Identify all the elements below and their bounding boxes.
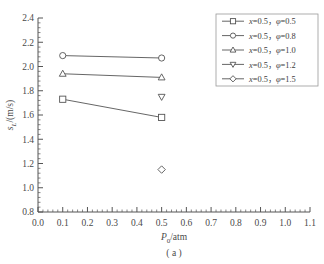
x-tick-label: 0.5	[156, 218, 168, 228]
y-axis-ticks: 0.81.01.21.41.61.82.02.22.4	[22, 13, 43, 217]
y-axis-title-text: sL/(m/s)	[5, 100, 18, 130]
y-tick-label: 1.2	[22, 159, 34, 169]
data-point-circle	[60, 52, 66, 58]
series-line	[63, 74, 162, 78]
figure-caption: ( a )	[166, 248, 181, 259]
legend-label[interactable]: x=0.5，φ=1.2	[248, 61, 296, 70]
legend-label[interactable]: x=0.5，φ=0.8	[248, 32, 296, 41]
data-point-triangle-up	[59, 70, 66, 76]
x-tick-label: 0.1	[57, 218, 69, 228]
data-point-square	[60, 96, 66, 102]
legend-label[interactable]: x=0.5，φ=1.0	[248, 46, 296, 55]
x-tick-label: 0.7	[205, 218, 217, 228]
y-tick-label: 2.4	[22, 13, 34, 23]
data-point-triangle-down	[158, 94, 165, 100]
x-tick-label: 0.0	[32, 218, 44, 228]
series-3	[158, 94, 165, 100]
series-line	[63, 99, 162, 117]
data-point-circle	[159, 55, 165, 61]
series-4	[158, 166, 165, 173]
x-tick-label: 1.1	[304, 218, 316, 228]
legend: x=0.5，φ=0.5x=0.5，φ=0.8x=0.5，φ=1.0x=0.5，φ…	[216, 14, 318, 86]
x-axis-title: P0/atm	[160, 232, 188, 245]
y-axis-title: sL/(m/s)	[5, 100, 18, 130]
x-tick-label: 0.3	[106, 218, 118, 228]
y-tick-label: 1.8	[22, 86, 34, 96]
series-0	[60, 96, 165, 120]
y-tick-label: 1.6	[22, 110, 34, 120]
y-tick-label: 1.0	[22, 183, 34, 193]
x-tick-label: 1.0	[279, 218, 291, 228]
series-line	[63, 56, 162, 58]
data-point-square	[159, 114, 165, 120]
x-axis-ticks: 0.00.10.20.30.40.50.60.70.80.91.01.1	[32, 207, 316, 228]
y-tick-label: 1.4	[22, 135, 34, 145]
series-1	[60, 52, 165, 61]
data-point-diamond	[158, 166, 165, 173]
legend-label[interactable]: x=0.5，φ=0.5	[248, 17, 296, 26]
chart-canvas: 0.00.10.20.30.40.50.60.70.80.91.01.10.81…	[0, 0, 324, 264]
data-point-triangle-up	[158, 74, 165, 80]
x-tick-label: 0.2	[82, 218, 94, 228]
x-axis-title-text: P0/atm	[160, 232, 188, 245]
y-tick-label: 2.2	[22, 38, 34, 48]
caption-text: ( a )	[166, 248, 181, 259]
data-point-square	[230, 19, 235, 24]
legend-label[interactable]: x=0.5，φ=1.5	[248, 75, 296, 84]
x-tick-label: 0.4	[131, 218, 143, 228]
x-tick-label: 0.6	[180, 218, 192, 228]
x-tick-label: 0.9	[255, 218, 267, 228]
y-tick-label: 2.0	[22, 62, 34, 72]
x-tick-label: 0.8	[230, 218, 242, 228]
figure-panel: 0.00.10.20.30.40.50.60.70.80.91.01.10.81…	[0, 0, 324, 264]
data-point-circle	[230, 33, 235, 38]
series-2	[59, 70, 165, 80]
y-tick-label: 0.8	[22, 207, 34, 217]
